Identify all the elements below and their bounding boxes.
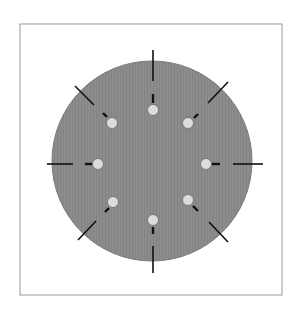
dot-top-right (183, 118, 194, 129)
dot-top-left (107, 118, 118, 129)
dot-bottom-right (183, 195, 194, 206)
dot-left (93, 159, 104, 170)
diagram-canvas (0, 0, 302, 315)
dot-bottom (148, 215, 159, 226)
dot-right (201, 159, 212, 170)
dot-bottom-left (108, 197, 119, 208)
dot-top (148, 105, 159, 116)
